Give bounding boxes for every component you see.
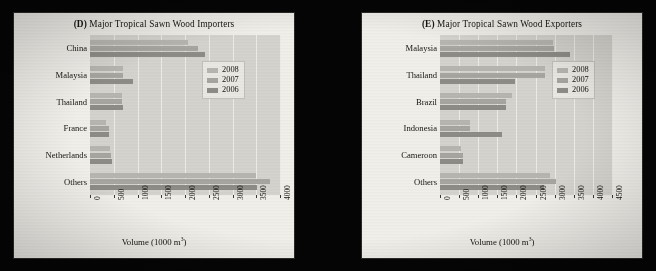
legend-label-2008: 2008 [572,66,589,74]
tick-mark [574,195,575,198]
tick-mark [440,195,441,198]
bar-2008-france [90,120,106,125]
axis-title-end-e: ) [531,237,534,247]
bar-2007-brazil [440,99,506,104]
gridline [185,35,186,195]
legend-row-2006: 2006 [557,85,589,95]
plot-area-e [440,35,612,195]
gridline [516,35,517,195]
legend-swatch-2006 [557,88,568,93]
tick-label-3500: 3500 [577,185,586,200]
bar-2007-thailand [440,73,545,78]
tick-mark [555,195,556,198]
bar-2007-others [440,179,556,184]
gridline [114,35,115,195]
gridline [536,35,537,195]
bar-2007-thailand [90,99,122,104]
category-label-cameroon: Cameroon [401,150,437,160]
legend-label-2007: 2007 [222,76,239,84]
tick-mark [593,195,594,198]
gridline [459,35,460,195]
bar-2007-indonesia [440,126,470,131]
legend-row-2008: 2008 [207,65,239,75]
tick-mark [138,195,139,198]
legend-swatch-2008 [207,68,218,73]
bar-2006-malaysia [440,52,570,57]
chart-panel-e: (E) Major Tropical Sawn Wood Exporters V… [362,13,642,258]
bar-2008-brazil [440,93,512,98]
panel-title-text-d: Major Tropical Sawn Wood Importers [87,19,234,29]
gridline [256,35,257,195]
tick-label-1000: 1000 [141,185,150,200]
legend-label-2006: 2006 [222,86,239,94]
category-label-malaysia: Malaysia [405,43,437,53]
tick-mark [161,195,162,198]
panel-title-text-e: Major Tropical Sawn Wood Exporters [435,19,582,29]
category-label-china: China [66,43,87,53]
bar-2006-indonesia [440,132,502,137]
tick-label-4000: 4000 [596,185,605,200]
bar-2007-netherlands [90,153,111,158]
tick-mark [185,195,186,198]
tick-mark [90,195,91,198]
category-label-thailand: Thailand [56,97,87,107]
tick-label-3000: 3000 [558,185,567,200]
bar-2006-thailand [90,105,123,110]
gridline [497,35,498,195]
axis-title-d: Volume (1000 mVolume (1000 m3)3) [14,236,294,247]
gridline [555,35,556,195]
chart-panel-d: (D) Major Tropical Sawn Wood Importers V… [14,13,294,258]
legend-d: 200820072006 [202,61,245,99]
tick-mark [612,195,613,198]
tick-mark [209,195,210,198]
plot-area-d [90,35,280,195]
category-label-others: Others [64,177,87,187]
tick-label-1000: 1000 [481,185,490,200]
legend-swatch-2007 [207,78,218,83]
bar-2008-cameroon [440,146,461,151]
gridline [161,35,162,195]
tick-label-2000: 2000 [519,185,528,200]
category-label-others: Others [414,177,437,187]
bar-2007-cameroon [440,153,463,158]
bar-2006-others [440,185,544,190]
gridline [138,35,139,195]
bar-2006-netherlands [90,159,112,164]
tick-label-4000: 4000 [283,185,292,200]
axis-title-text-e: Volume (1000 m [470,237,529,247]
tick-mark [536,195,537,198]
legend-row-2008: 2008 [557,65,589,75]
bar-2007-malaysia [440,46,554,51]
bar-2006-others [90,185,257,190]
gridline [612,35,613,195]
legend-label-2008: 2008 [222,66,239,74]
bar-2006-france [90,132,109,137]
tick-label-500: 500 [462,189,471,200]
bar-2006-cameroon [440,159,463,164]
tick-label-500: 500 [117,189,126,200]
gridline [593,35,594,195]
tick-label-3500: 3500 [259,185,268,200]
tick-label-3000: 3000 [236,185,245,200]
bar-2008-china [90,40,188,45]
bar-2008-indonesia [440,120,470,125]
tick-mark [478,195,479,198]
tick-mark [497,195,498,198]
gridline [209,35,210,195]
category-label-thailand: Thailand [406,70,437,80]
bar-2007-france [90,126,109,131]
category-label-indonesia: Indonesia [404,123,437,133]
gridline [280,35,281,195]
gridline [233,35,234,195]
axis-title-e: Volume (1000 m3) [362,236,642,247]
tick-label-0: 0 [443,196,452,200]
bar-2006-china [90,52,205,57]
bar-2008-netherlands [90,146,110,151]
tick-mark [459,195,460,198]
panel-tag-d: (D) [74,19,87,29]
chart-title-d: (D) Major Tropical Sawn Wood Importers [14,19,294,29]
bar-2006-brazil [440,105,506,110]
category-label-malaysia: Malaysia [55,70,87,80]
bar-2006-thailand [440,79,515,84]
bar-2007-others [90,179,270,184]
